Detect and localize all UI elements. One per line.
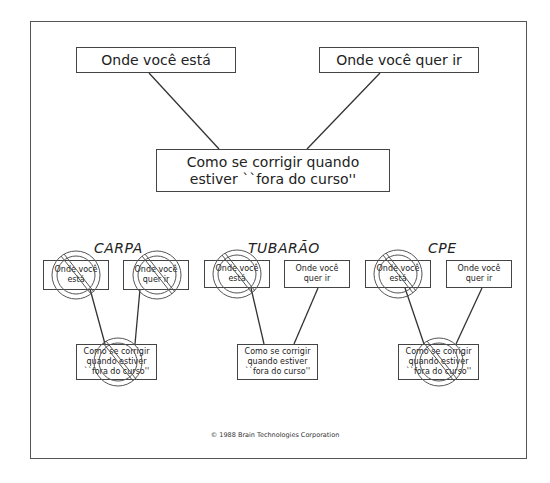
copyright-notice: © 1988 Brain Technologies Corporation	[0, 431, 550, 439]
prohibition-symbols	[0, 0, 550, 483]
no-symbol-icon-carpa-goal	[133, 251, 181, 299]
no-symbol-icon-cpe-current	[374, 250, 422, 298]
no-symbol-icon-carpa-current	[52, 251, 100, 299]
no-symbol-icon-tubarao-current	[213, 250, 261, 298]
diagram-canvas: Onde você está Onde você quer ir Como se…	[0, 0, 550, 483]
no-symbol-icon-cpe-correction	[415, 338, 463, 386]
no-symbol-icon-carpa-correction	[94, 338, 142, 386]
